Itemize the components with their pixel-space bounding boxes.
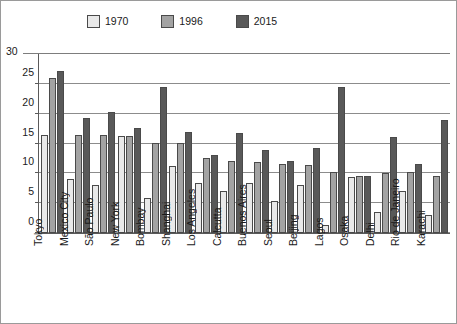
bar [100,135,107,233]
bar-group [321,54,347,233]
y-axis-top-label: 30 [6,45,18,57]
bar [75,135,82,233]
x-axis-label: Calcutta [211,207,222,246]
bar [356,176,363,233]
bar-group [245,54,271,233]
legend-swatch-2015 [236,15,249,28]
x-axis-label-cell: Beijing [294,246,320,324]
bar [407,172,414,233]
legend-item-1970: 1970 [87,15,128,28]
bar [348,177,355,233]
y-axis-tick-label: 5 [28,185,34,197]
bar-group [296,54,322,233]
x-axis-label-cell: Lagos [320,246,346,324]
x-axis-label-cell: Buenos Aires [243,246,269,324]
legend-swatch-1996 [161,15,174,28]
bar [399,191,406,233]
legend-swatch-1970 [87,15,100,28]
x-axis-label: Delhi [364,222,375,246]
x-axis-label: Tokyo [33,219,44,246]
x-axis-label-cell: Tokyo [39,246,65,324]
x-axis-label-cell: Calcutta [218,246,244,324]
chart-legend: 1970 1996 2015 [1,15,456,28]
bar [177,143,184,233]
legend-label-1970: 1970 [105,16,128,27]
bar [203,158,210,233]
legend-item-2015: 2015 [236,15,277,28]
x-axis-label-cell: Delhi [371,246,397,324]
x-axis-label: Los Angeles [186,189,197,246]
bar [126,136,133,233]
x-axis-label-cell: Seoul [269,246,295,324]
x-axis-label-cell: Shanghai [167,246,193,324]
x-axis-label-cell: São Paulo [90,246,116,324]
x-axis-labels: TokyoMexico CitySão PauloNew YorkBombayS… [38,246,448,324]
bar [338,87,345,233]
x-axis-label: Mexico City [58,192,69,246]
y-axis-tick-label: 15 [22,126,34,138]
x-axis-label: Shanghai [160,202,171,246]
legend-label-1996: 1996 [179,16,202,27]
legend-label-2015: 2015 [254,16,277,27]
bar [254,162,261,233]
x-axis-label: Lagos [313,217,324,246]
x-axis-label: Beijing [288,214,299,246]
legend-item-1996: 1996 [161,15,202,28]
bar [279,164,286,233]
x-axis-label: São Paulo [84,198,95,246]
bar [228,161,235,233]
y-axis-tick-label: 10 [22,155,34,167]
bar [49,78,56,233]
bar [152,143,159,233]
x-axis-label: Bombay [135,207,146,246]
x-axis-label-cell: Karachi [422,246,448,324]
x-axis-label: Seoul [262,219,273,246]
x-axis-label: New York [109,202,120,246]
bar [305,165,312,233]
bar-group [270,54,296,233]
bar [433,176,440,233]
x-axis-label-cell: Bombay [141,246,167,324]
x-axis-label-cell: Mexico City [65,246,91,324]
x-axis-label-cell: New York [116,246,142,324]
x-axis-label-cell: Los Angeles [192,246,218,324]
bar-group [347,54,373,233]
x-axis-label: Buenos Aires [237,184,248,246]
x-axis-label-cell: Osaka [345,246,371,324]
bar [330,172,337,233]
bar [441,120,448,233]
y-axis-tick-label: 25 [22,66,34,78]
x-axis-label: Rio de Janeiro [390,178,401,246]
x-axis-label: Karachi [415,210,426,246]
bar-group [398,54,424,233]
x-axis-label-cell: Rio de Janeiro [396,246,422,324]
bar-group [423,54,449,233]
y-axis-tick-label: 20 [22,96,34,108]
bar-chart: 1970 1996 2015 30 0510152025 TokyoMexico… [0,0,457,324]
x-axis-label: Osaka [339,216,350,246]
